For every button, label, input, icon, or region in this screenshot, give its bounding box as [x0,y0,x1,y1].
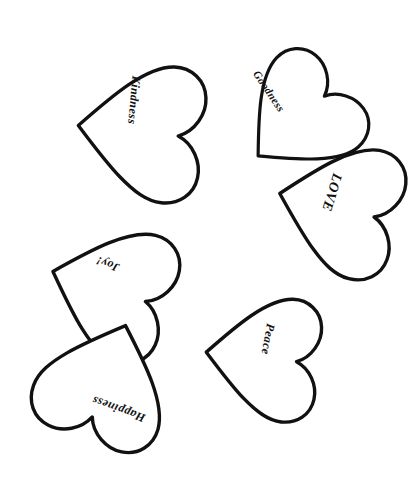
coloring-page-canvas: KindnessGoodnessLOVEJoy!HappinessPeace [0,0,417,482]
heart-peace[interactable]: Peace [200,291,325,425]
hearts-scene: KindnessGoodnessLOVEJoy!HappinessPeace [0,0,417,482]
heart-kindness[interactable]: Kindness [71,58,209,207]
heart-label-kindness: Kindness [125,74,143,125]
heart-outline-peace [200,291,325,425]
